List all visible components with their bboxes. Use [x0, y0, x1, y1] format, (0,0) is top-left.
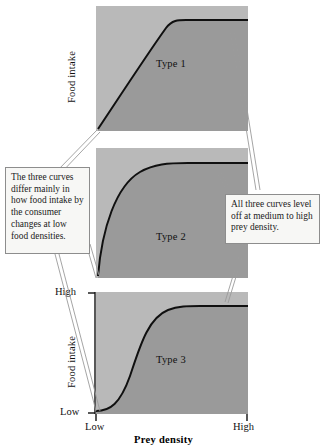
type-3-plot	[96, 292, 248, 414]
type-2-label: Type 2	[156, 231, 186, 242]
x-axis-title: Prey density	[134, 434, 193, 445]
type-3-label: Type 3	[156, 354, 186, 365]
callout-level-off: All three curves level off at medium to …	[225, 194, 320, 244]
type-1-label: Type 1	[156, 58, 186, 69]
functional-response-figure: Type 1 Food intake Type 2 Type 3 Food in…	[0, 0, 324, 448]
type-3-ylabel: Food intake	[66, 336, 77, 388]
callout-level-off-text: All three curves level off at medium to …	[231, 199, 314, 234]
x-tick-label-high: High	[233, 421, 254, 432]
callout-low-density: The three curves differ mainly in how fo…	[5, 167, 90, 254]
callout-low-density-text: The three curves differ mainly in how fo…	[11, 172, 84, 242]
panel-type-3: Type 3	[96, 292, 248, 414]
type-1-ylabel: Food intake	[66, 51, 77, 103]
y-tick-label-low: Low	[60, 406, 79, 417]
x-tick-label-low: Low	[85, 421, 104, 432]
leader-left-to-type1	[57, 130, 97, 171]
y-tick-label-high: High	[55, 286, 76, 297]
panel-type-1: Type 1	[96, 6, 248, 131]
